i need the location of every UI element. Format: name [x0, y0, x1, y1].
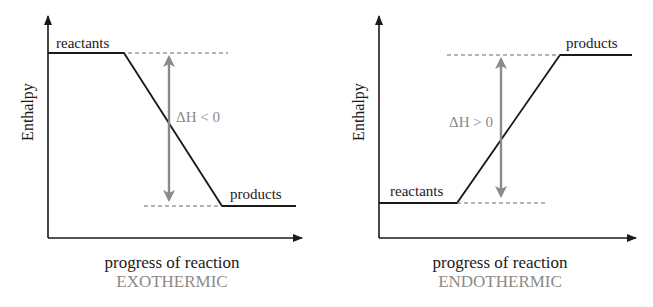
enthalpy-diagrams: reactants products ΔH < 0 Enthalpy progr…: [0, 0, 653, 307]
enthalpy-curve: [379, 55, 632, 203]
y-axis-label: Enthalpy: [350, 83, 368, 141]
exothermic-panel: reactants products ΔH < 0 Enthalpy progr…: [19, 16, 302, 291]
delta-h-label: ΔH > 0: [449, 114, 493, 130]
enthalpy-curve: [48, 53, 296, 206]
delta-h-label: ΔH < 0: [176, 109, 220, 125]
x-axis-label: progress of reaction: [104, 253, 240, 272]
products-label: products: [566, 35, 618, 51]
reactants-label: reactants: [56, 35, 109, 51]
panel-caption: ENDOTHERMIC: [438, 272, 562, 291]
products-label: products: [230, 186, 282, 202]
reactants-label: reactants: [390, 183, 443, 199]
endothermic-panel: reactants products ΔH > 0 Enthalpy progr…: [350, 16, 636, 291]
panel-caption: EXOTHERMIC: [116, 272, 227, 291]
x-axis-label: progress of reaction: [432, 253, 568, 272]
y-axis-label: Enthalpy: [19, 83, 37, 141]
